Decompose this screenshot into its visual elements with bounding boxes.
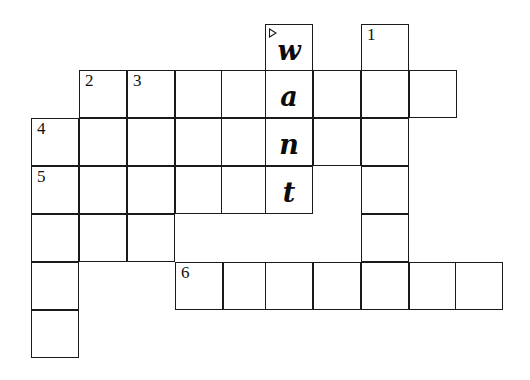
cell-number: 1 [367,26,376,43]
cell-r1c4[interactable] [221,70,269,118]
cell-r2c0-n4[interactable]: 4 [31,118,79,166]
cell-r3c3[interactable] [175,166,223,214]
cell-r5c0[interactable] [31,262,79,310]
cell-r5c5[interactable] [265,262,313,310]
cell-r1c5-a[interactable]: a [265,70,313,118]
cell-r2c7[interactable] [361,118,409,166]
cell-r0c5-w[interactable]: w [265,24,313,72]
cell-r5c7[interactable] [361,262,409,310]
cell-r4c2[interactable] [127,214,175,262]
cell-r3c5-t[interactable]: t [265,166,313,214]
cell-r5c8[interactable] [409,262,457,310]
cell-r4c1[interactable] [79,214,127,262]
cell-r2c5-n[interactable]: n [265,118,313,166]
cell-r1c6[interactable] [313,70,361,118]
cell-r3c4[interactable] [221,166,269,214]
cell-letter: t [266,167,312,213]
cell-r5c3-n6[interactable]: 6 [175,262,223,310]
cell-number: 2 [85,72,94,89]
cell-r1c1-n2[interactable]: 2 [79,70,127,118]
cell-r3c0-n5[interactable]: 5 [31,166,79,214]
cell-r2c4[interactable] [221,118,269,166]
cell-r5c6[interactable] [313,262,361,310]
cell-r3c2[interactable] [127,166,175,214]
cell-number: 4 [37,120,46,137]
cell-r1c3[interactable] [175,70,223,118]
cell-letter: n [266,119,312,165]
cell-r4c0[interactable] [31,214,79,262]
cell-r1c2-n3[interactable]: 3 [127,70,175,118]
cell-r5c9[interactable] [455,262,503,310]
cell-r1c8[interactable] [409,70,457,118]
cell-number: 3 [133,72,142,89]
cell-r0c7-n1[interactable]: 1 [361,24,409,72]
cell-r2c3[interactable] [175,118,223,166]
crossword-grid: w123a4n5t6 [0,0,530,380]
cell-r2c6[interactable] [313,118,361,166]
cell-r1c7[interactable] [361,70,409,118]
cell-letter: a [266,71,312,117]
cell-number: 6 [181,264,190,281]
cell-r3c7[interactable] [361,166,409,214]
cell-r4c7[interactable] [361,214,409,262]
cell-letter: w [266,25,312,71]
cell-r2c2[interactable] [127,118,175,166]
cell-r6c0[interactable] [31,310,79,358]
cell-r3c1[interactable] [79,166,127,214]
cell-r2c1[interactable] [79,118,127,166]
cell-number: 5 [37,168,46,185]
cell-r5c4[interactable] [223,262,271,310]
